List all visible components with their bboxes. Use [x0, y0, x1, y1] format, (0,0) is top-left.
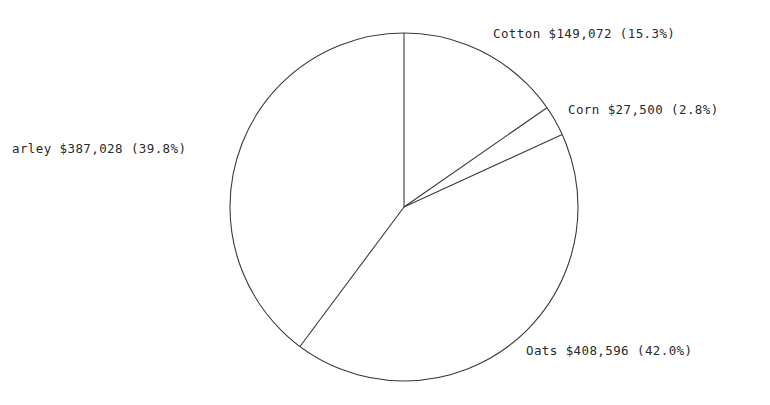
- label-corn: Corn $27,500 (2.8%): [568, 102, 719, 117]
- label-oats: Oats $408,596 (42.0%): [526, 343, 692, 358]
- label-cotton: Cotton $149,072 (15.3%): [493, 26, 675, 41]
- pie-slices: [230, 33, 578, 381]
- label-barley: arley $387,028 (39.8%): [12, 141, 186, 156]
- pie-chart: Cotton $149,072 (15.3%) Corn $27,500 (2.…: [0, 0, 770, 405]
